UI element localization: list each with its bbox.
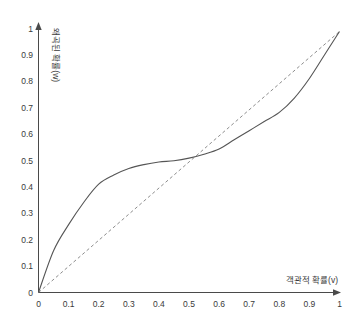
y-tick-label: 0.6 [21,129,33,139]
y-tick-label: 0.8 [21,76,33,86]
diagonal-reference-line [39,32,340,293]
y-axis-arrow-icon [35,22,41,30]
y-tick-label: 1 [28,24,33,34]
x-tick-label: 0.3 [123,299,135,309]
y-tick-label: 0.9 [21,50,33,60]
y-tick-label: 0.1 [21,261,33,271]
x-tick-label: 0.5 [183,299,195,309]
x-tick-label: 0.6 [213,299,225,309]
x-axis [39,289,342,295]
x-tick-label: 0.1 [63,299,75,309]
y-tick-label: 0.4 [21,182,33,192]
y-axis-title: 왜곡된 확률(w) [51,28,61,82]
x-tick-label: 0 [36,299,41,309]
x-axis-arrow-icon [333,289,341,295]
x-axis-title: 객관적 확률(v) [286,275,338,285]
y-tick-labels: 0 0.1 0.2 0.3 0.4 0.5 0.6 0.7 0.8 0.9 1 [21,24,33,298]
y-tick-label: 0.7 [21,103,33,113]
chart-container: 0 0.1 0.2 0.3 0.4 0.5 0.6 0.7 0.8 0.9 1 … [0,0,357,325]
x-tick-label: 0.4 [153,299,165,309]
x-tick-labels: 0 0.1 0.2 0.3 0.4 0.5 0.6 0.7 0.8 0.9 1 [36,299,342,309]
x-tick-label: 0.9 [303,299,315,309]
y-tick-label: 0 [28,288,33,298]
x-tick-label: 0.8 [273,299,285,309]
x-tick-label: 1 [337,299,342,309]
y-tick-label: 0.2 [21,235,33,245]
y-axis [35,22,41,293]
probability-weighting-plot: 0 0.1 0.2 0.3 0.4 0.5 0.6 0.7 0.8 0.9 1 … [0,0,357,325]
y-tick-label: 0.3 [21,208,33,218]
x-tick-label: 0.7 [243,299,255,309]
y-tick-label: 0.5 [21,156,33,166]
x-tick-label: 0.2 [93,299,105,309]
